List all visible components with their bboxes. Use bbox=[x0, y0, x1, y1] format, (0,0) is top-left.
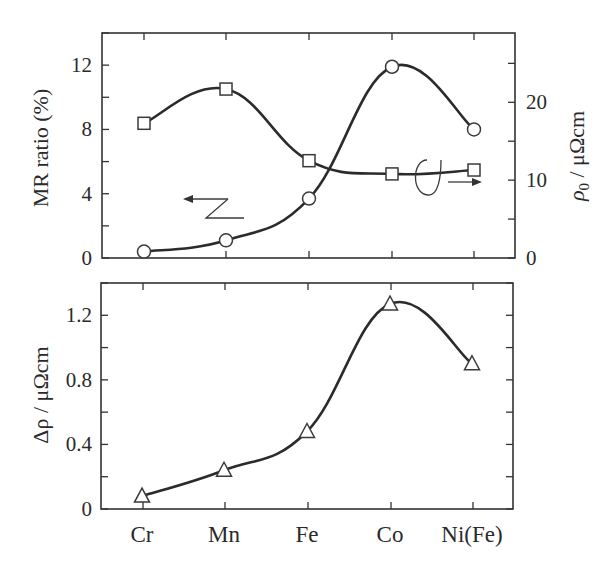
square-marker bbox=[138, 117, 150, 129]
bottom-tick-label: 0.8 bbox=[66, 368, 92, 392]
circle-marker bbox=[303, 192, 316, 205]
circle-marker bbox=[138, 245, 151, 258]
figure: 0481201020 MR ratio (%) ρ0 / μΩcm bbox=[0, 0, 609, 570]
square-marker bbox=[303, 155, 315, 167]
x-category-labels: CrMnFeCoNi(Fe) bbox=[131, 522, 503, 547]
x-category-label: Ni(Fe) bbox=[441, 522, 502, 547]
left-axis-indicator-arrow-icon bbox=[183, 195, 244, 218]
bottom-tick-label: 0 bbox=[82, 497, 93, 521]
square-marker bbox=[468, 164, 480, 176]
top-markers bbox=[138, 60, 481, 258]
top-right-tick-label: 0 bbox=[526, 246, 537, 270]
bottom-panel: 00.40.81.2 Δρ / μΩcm CrMnFeCoNi(Fe) bbox=[28, 283, 513, 547]
chart-canvas: 0481201020 MR ratio (%) ρ0 / μΩcm bbox=[0, 0, 609, 570]
top-plot-frame bbox=[102, 33, 515, 258]
bottom-axis-title: Δρ / μΩcm bbox=[28, 346, 53, 443]
x-category-label: Mn bbox=[208, 522, 240, 547]
x-category-label: Fe bbox=[296, 522, 319, 547]
top-left-tick-label: 4 bbox=[82, 182, 93, 206]
bottom-axis-ticks: 00.40.81.2 bbox=[66, 283, 513, 521]
bottom-curves bbox=[142, 302, 472, 496]
circle-marker bbox=[468, 123, 481, 136]
top-left-axis-title: MR ratio (%) bbox=[28, 89, 53, 208]
top-right-tick-label: 10 bbox=[526, 168, 547, 192]
top-left-tick-label: 12 bbox=[71, 53, 92, 77]
square-marker bbox=[220, 83, 232, 95]
x-category-label: Co bbox=[377, 522, 404, 547]
bottom-tick-label: 0.4 bbox=[66, 432, 93, 456]
circle-marker bbox=[386, 60, 399, 73]
top-right-axis-title: ρ0 / μΩcm bbox=[564, 111, 592, 202]
bottom-tick-label: 1.2 bbox=[66, 303, 92, 327]
square-marker bbox=[386, 168, 398, 180]
top-panel: 0481201020 MR ratio (%) ρ0 / μΩcm bbox=[28, 33, 592, 270]
top-left-tick-label: 8 bbox=[82, 117, 93, 141]
x-category-label: Cr bbox=[131, 522, 154, 547]
top-axis-ticks: 0481201020 bbox=[71, 33, 547, 270]
top-left-tick-label: 0 bbox=[82, 246, 93, 270]
bottom-plot-frame bbox=[101, 283, 513, 509]
circle-marker bbox=[220, 234, 233, 247]
bottom-markers bbox=[135, 296, 480, 502]
top-right-tick-label: 20 bbox=[526, 90, 547, 114]
series-curve-triangle bbox=[142, 302, 472, 496]
